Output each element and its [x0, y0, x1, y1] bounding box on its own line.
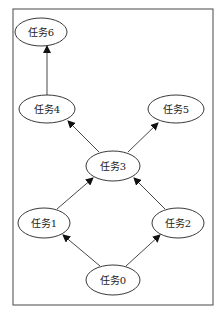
node-label: 任务5 — [163, 103, 189, 115]
node-label: 任务6 — [28, 26, 54, 38]
node-label: 任务4 — [34, 103, 60, 115]
node-task-0: 任务0 — [86, 265, 140, 295]
task-dependency-graph: 任务6 任务4 任务5 任务3 任务1 任务2 任务0 — [0, 0, 223, 316]
node-task-1: 任务1 — [18, 208, 70, 238]
edge-1-3 — [57, 178, 93, 209]
edge-2-3 — [134, 178, 165, 209]
node-label: 任务0 — [100, 274, 126, 286]
node-task-3: 任务3 — [86, 151, 140, 181]
node-label: 任务3 — [100, 160, 126, 172]
edge-0-1 — [63, 235, 100, 266]
edge-3-4 — [68, 121, 99, 152]
node-task-5: 任务5 — [148, 95, 204, 123]
node-label: 任务2 — [165, 217, 191, 229]
node-task-4: 任务4 — [19, 95, 75, 123]
node-label: 任务1 — [31, 217, 57, 229]
node-task-2: 任务2 — [152, 208, 204, 238]
edge-3-5 — [128, 123, 158, 152]
node-task-6: 任务6 — [15, 18, 67, 46]
edge-0-2 — [126, 235, 160, 266]
